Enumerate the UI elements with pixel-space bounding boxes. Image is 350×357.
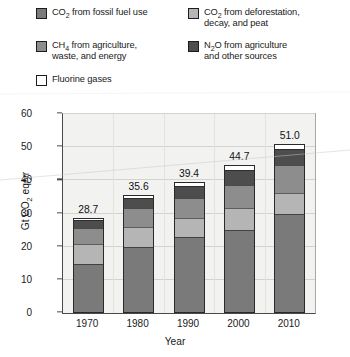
bar-segment[interactable] <box>274 149 305 166</box>
chart-area: Gt CO2 eq/yr 0102030405060 28.735.639.44… <box>0 96 350 357</box>
bar-segment[interactable] <box>224 185 255 208</box>
bar-segment[interactable] <box>174 198 205 218</box>
bar-segment[interactable] <box>73 228 104 244</box>
bar-segment[interactable] <box>224 208 255 230</box>
x-tick-label-1980: 1980 <box>112 318 164 329</box>
y-tick-label: 20 <box>0 240 32 251</box>
legend-label-n2o: N2O from agricultureand other sources <box>204 40 287 62</box>
bar-segment[interactable] <box>73 244 104 264</box>
bar-value-label: 39.4 <box>167 168 211 179</box>
bar-segment[interactable] <box>123 198 154 209</box>
bar-segment[interactable] <box>73 220 104 229</box>
bar-1990[interactable] <box>174 182 205 313</box>
bar-segment[interactable] <box>174 218 205 237</box>
x-tick-label-2000: 2000 <box>212 318 264 329</box>
bar-segment[interactable] <box>123 208 154 227</box>
bar-2010[interactable] <box>274 144 305 313</box>
x-tick-label-1970: 1970 <box>61 318 113 329</box>
legend-swatch-n2o <box>188 41 199 52</box>
y-tick-label: 10 <box>0 273 32 284</box>
x-tick-label-1990: 1990 <box>162 318 214 329</box>
x-axis-label: Year <box>0 336 350 347</box>
bar-1970[interactable] <box>73 218 104 313</box>
legend-label-ch4: CH4 from agriculture,waste, and energy <box>52 40 137 62</box>
y-tick-label: 60 <box>0 108 32 119</box>
plot-area: 28.735.639.444.751.0 <box>62 113 316 314</box>
chart-figure: CO2 from fossil fuel use CO2 from defore… <box>0 0 350 357</box>
bar-value-label: 35.6 <box>117 181 161 192</box>
legend-swatch-ch4 <box>36 41 47 52</box>
bar-2000[interactable] <box>224 165 255 313</box>
bar-segment[interactable] <box>274 214 305 314</box>
legend-item-co2-deforestation: CO2 from deforestation,decay, and peat <box>188 7 300 29</box>
x-tick-label-2010: 2010 <box>263 318 315 329</box>
chart-legend: CO2 from fossil fuel use CO2 from defore… <box>0 0 350 96</box>
bar-segment[interactable] <box>224 230 255 313</box>
bar-segment[interactable] <box>174 186 205 199</box>
legend-item-co2-fossil: CO2 from fossil fuel use <box>36 7 148 19</box>
y-tick-label: 30 <box>0 207 32 218</box>
bar-segment[interactable] <box>274 165 305 192</box>
category-separator <box>265 114 266 313</box>
legend-item-fluorine: Fluorine gases <box>36 74 112 86</box>
y-tick-label: 40 <box>0 174 32 185</box>
legend-label-fluorine: Fluorine gases <box>52 74 112 85</box>
bar-1980[interactable] <box>123 195 154 313</box>
legend-swatch-fluorine <box>36 75 47 86</box>
category-separator <box>113 114 114 313</box>
legend-swatch-co2-fossil <box>36 8 47 19</box>
category-separator <box>164 114 165 313</box>
legend-swatch-co2-deforestation <box>188 8 199 19</box>
bar-segment[interactable] <box>224 170 255 185</box>
bar-value-label: 51.0 <box>268 130 312 141</box>
legend-item-n2o: N2O from agricultureand other sources <box>188 40 287 62</box>
bar-segment[interactable] <box>123 247 154 313</box>
legend-label-co2-deforestation: CO2 from deforestation,decay, and peat <box>204 7 300 29</box>
legend-item-ch4: CH4 from agriculture,waste, and energy <box>36 40 137 62</box>
y-tick-label: 50 <box>0 141 32 152</box>
bar-segment[interactable] <box>123 227 154 247</box>
category-separator <box>214 114 215 313</box>
y-tick-label: 0 <box>0 307 32 318</box>
bar-segment[interactable] <box>73 264 104 313</box>
legend-label-co2-fossil: CO2 from fossil fuel use <box>52 7 148 18</box>
bar-segment[interactable] <box>174 237 205 313</box>
bar-value-label: 44.7 <box>217 151 261 162</box>
bar-value-label: 28.7 <box>66 204 110 215</box>
bar-segment[interactable] <box>274 193 305 214</box>
gridline <box>63 113 315 114</box>
